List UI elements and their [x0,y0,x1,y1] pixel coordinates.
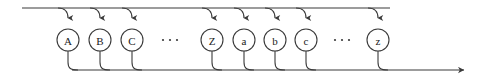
exit-branch-node-upper-c [132,51,142,70]
exit-branch-group [68,51,388,70]
node-lower-b[interactable]: b [264,29,286,51]
node-lower-z[interactable]: z [367,29,389,51]
node-upper-a-label: A [64,35,72,47]
node-lower-z-label: z [376,35,381,47]
node-upper-z[interactable]: Z [201,29,223,51]
node-upper-c-label: C [128,35,135,47]
railroad-canvas: A B C Z a b [0,0,493,77]
node-lower-c-label: c [304,35,309,47]
entry-branch-node-lower-z [368,8,378,18]
exit-branch-node-upper-a [68,51,78,70]
exit-branch-node-lower-z [378,51,388,70]
entry-branch-node-upper-b [90,8,100,18]
railroad-diagram: A B C Z a b [0,0,493,77]
exit-branch-node-lower-b [275,51,285,70]
ellipsis-uppercase-dot-2 [169,39,171,41]
node-upper-b-label: B [96,35,103,47]
ellipsis-lowercase-dot-2 [341,39,343,41]
entry-branch-node-upper-z [202,8,212,18]
exit-branch-node-upper-z [212,51,222,70]
node-upper-a[interactable]: A [57,29,79,51]
node-lower-c[interactable]: c [295,29,317,51]
node-lower-a[interactable]: a [233,29,255,51]
node-group: A B C Z a b [57,29,389,51]
entry-branch-node-lower-c [296,8,306,18]
ellipsis-lowercase-dot-1 [334,39,336,41]
ellipsis-lowercase [334,39,350,41]
ellipsis-uppercase [162,39,178,41]
node-lower-a-label: a [242,35,247,47]
entry-branch-node-lower-b [265,8,275,18]
exit-branch-node-lower-a [244,51,254,70]
node-lower-b-label: b [272,35,278,47]
node-upper-c[interactable]: C [121,29,143,51]
entry-branch-node-lower-a [234,8,244,18]
exit-branch-node-lower-c [306,51,316,70]
ellipsis-lowercase-dot-3 [348,39,350,41]
node-upper-z-label: Z [209,35,216,47]
node-upper-b[interactable]: B [89,29,111,51]
ellipsis-uppercase-dot-1 [162,39,164,41]
entry-branch-node-upper-c [122,8,132,18]
entry-branch-group [58,8,378,18]
entry-branch-node-upper-a [58,8,68,18]
ellipsis-uppercase-dot-3 [176,39,178,41]
ellipsis-group [162,39,350,41]
exit-branch-node-upper-b [100,51,110,70]
